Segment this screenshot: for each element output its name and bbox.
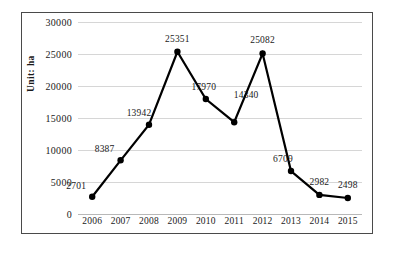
data-point-marker — [89, 194, 95, 200]
point-value-label: 17970 — [191, 82, 216, 92]
y-axis-title: Unit: ha — [26, 55, 36, 92]
data-point-marker — [345, 195, 351, 201]
gridline — [78, 214, 362, 215]
x-tick-label: 2006 — [82, 216, 102, 226]
x-tick-label: 2013 — [281, 216, 301, 226]
point-value-label: 2498 — [338, 180, 358, 190]
x-tick-label: 2012 — [253, 216, 273, 226]
point-value-label: 14340 — [234, 90, 259, 100]
x-axis-tick-labels: 2006200720082009201020112012201320142015 — [78, 216, 362, 232]
x-tick-label: 2009 — [167, 216, 187, 226]
point-value-label: 2982 — [309, 177, 329, 187]
point-value-label: 8387 — [95, 144, 115, 154]
data-point-marker — [231, 119, 237, 125]
y-tick-label: 0 — [67, 209, 72, 220]
point-value-label: 25082 — [250, 35, 275, 45]
data-point-marker — [117, 157, 123, 163]
point-value-label: 13942 — [127, 108, 152, 118]
plot-area: 050001000015000200002500030000 270183871… — [78, 22, 362, 214]
x-tick-label: 2010 — [196, 216, 216, 226]
point-value-label: 2701 — [66, 181, 86, 191]
y-tick-label: 25000 — [46, 49, 73, 60]
point-value-label: 25351 — [165, 34, 190, 44]
data-point-marker — [288, 168, 294, 174]
y-tick-label: 30000 — [46, 17, 73, 28]
x-tick-label: 2007 — [111, 216, 131, 226]
point-value-label: 6709 — [273, 154, 293, 164]
data-point-marker — [203, 96, 209, 102]
data-point-marker — [316, 192, 322, 198]
x-tick-label: 2015 — [338, 216, 358, 226]
x-tick-label: 2014 — [309, 216, 329, 226]
y-tick-label: 15000 — [46, 113, 73, 124]
data-point-marker — [174, 49, 180, 55]
x-tick-label: 2011 — [224, 216, 243, 226]
x-tick-label: 2008 — [139, 216, 159, 226]
data-point-marker — [146, 122, 152, 128]
y-tick-label: 20000 — [46, 81, 73, 92]
line-chart-figure: Unit: ha 050001000015000200002500030000 … — [0, 0, 395, 254]
y-tick-label: 10000 — [46, 145, 73, 156]
data-point-marker — [259, 50, 265, 56]
